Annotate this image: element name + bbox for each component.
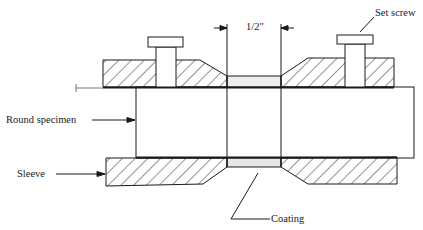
- set-screw-left-shank: [156, 47, 176, 87]
- set-screw-left-head: [148, 37, 183, 47]
- set-screw-right-shank: [345, 44, 365, 87]
- set-screw-right-head: [337, 35, 373, 44]
- sleeve-label: Sleeve: [17, 169, 45, 180]
- round-specimen: [136, 87, 414, 158]
- round-specimen-leader: [92, 118, 135, 123]
- coating-bottom: [227, 158, 281, 167]
- set-screw-label: Set screw: [375, 8, 416, 19]
- sleeve-bottom-right: [281, 157, 397, 184]
- sleeve-top-right: [281, 58, 394, 87]
- coating-top: [227, 76, 281, 87]
- coating-leader: [231, 173, 270, 219]
- sleeve-leader: [56, 172, 105, 177]
- coating-label: Coating: [271, 214, 304, 225]
- round-specimen-label: Round specimen: [6, 115, 76, 126]
- sleeve-bottom-left: [106, 158, 227, 186]
- dimension-label: 1/2": [246, 22, 264, 33]
- set-screw-leader: [360, 17, 374, 32]
